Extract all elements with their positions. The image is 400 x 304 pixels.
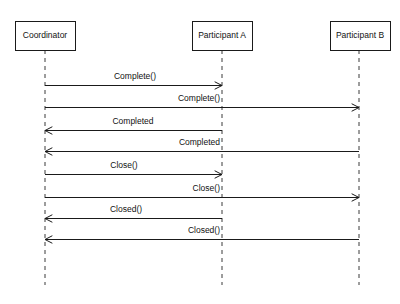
message-label-msg-5: Close() (110, 160, 138, 170)
message-msg-6[interactable]: Close() (45, 183, 359, 201)
participant-label-coordinator: Coordinator (23, 30, 68, 40)
message-msg-8[interactable]: Closed() (45, 225, 359, 243)
message-label-msg-3: Completed (112, 116, 153, 126)
lifeline-participant-a[interactable]: Participant A (193, 22, 253, 286)
message-msg-2[interactable]: Complete() (45, 93, 359, 111)
participant-label-participant-b: Participant B (336, 30, 385, 40)
lifeline-participant-b[interactable]: Participant B (331, 22, 391, 286)
sequence-diagram-svg: CoordinatorParticipant AParticipant B Co… (0, 0, 400, 304)
lifelines-layer: CoordinatorParticipant AParticipant B (16, 22, 391, 286)
message-msg-7[interactable]: Closed() (45, 204, 222, 222)
participant-label-participant-a: Participant A (198, 30, 246, 40)
message-msg-4[interactable]: Completed (45, 137, 359, 155)
messages-layer: Complete()Complete()CompletedCompletedCl… (45, 71, 359, 243)
message-label-msg-2: Complete() (178, 93, 220, 103)
message-label-msg-6: Close() (193, 183, 221, 193)
lifeline-coordinator[interactable]: Coordinator (16, 22, 76, 286)
message-label-msg-4: Completed (179, 137, 220, 147)
sequence-diagram-canvas: CoordinatorParticipant AParticipant B Co… (0, 0, 400, 304)
message-label-msg-1: Complete() (114, 71, 156, 81)
message-label-msg-8: Closed() (188, 225, 220, 235)
message-msg-1[interactable]: Complete() (45, 71, 222, 89)
message-label-msg-7: Closed() (110, 204, 142, 214)
message-msg-3[interactable]: Completed (45, 116, 222, 134)
message-msg-5[interactable]: Close() (45, 160, 222, 178)
